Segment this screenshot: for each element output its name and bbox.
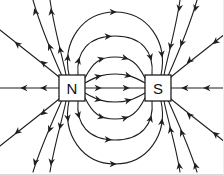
field-line-north-left-lower [0, 99, 59, 146]
field-line-arc-top-outer [68, 12, 163, 75]
field-line-south-up [164, 0, 180, 75]
north-pole-magnet: N [59, 75, 85, 101]
field-arrowhead [97, 55, 106, 63]
field-line-north-left-upper [0, 30, 59, 77]
north-pole-label: N [67, 80, 78, 97]
field-arrowhead [45, 125, 54, 134]
field-line-arc-bottom-third [85, 98, 145, 119]
south-pole-magnet: S [145, 75, 171, 101]
diagram-canvas: N S [0, 0, 224, 176]
field-line-arc-top-second [78, 36, 152, 75]
field-arrowhead [177, 39, 186, 48]
field-line-south-right-upper [171, 30, 224, 77]
field-arrowhead [177, 128, 186, 137]
field-line-arc-top-inner [85, 74, 145, 83]
magnetic-field-diagram: N S [0, 0, 224, 176]
field-arrowhead [146, 53, 154, 62]
field-arrowhead [45, 42, 54, 51]
field-arrowhead [94, 96, 103, 104]
field-arrowhead [56, 46, 64, 55]
field-line-arc-bottom-second [78, 101, 152, 140]
field-arrowhead [124, 72, 133, 80]
field-lines [0, 0, 224, 172]
field-line-arc-top-third [85, 57, 145, 78]
field-line-arc-bottom-outer [68, 101, 163, 164]
field-line-arc-bottom-inner [85, 93, 145, 102]
south-pole-label: S [153, 80, 163, 97]
field-arrowhead [124, 96, 133, 104]
field-line-south-down [164, 101, 180, 172]
field-arrowhead [146, 114, 154, 123]
field-arrowhead [94, 72, 103, 80]
field-arrowhead [97, 113, 106, 121]
field-line-south-right-lower [171, 99, 224, 146]
field-arrowheads [13, 4, 221, 170]
